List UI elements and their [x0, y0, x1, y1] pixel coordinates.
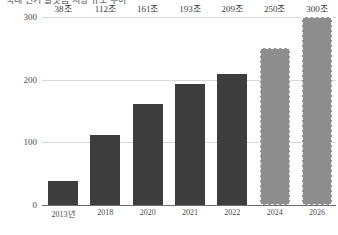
x-axis: 2013년 2018 2020 2021 2022 2024 2026: [42, 208, 336, 219]
bar-slot-2021: 193조: [175, 17, 205, 205]
bar-2018[interactable]: [90, 135, 120, 205]
bar-slot-2024: 250조: [260, 17, 290, 205]
bar-2022[interactable]: [217, 74, 247, 205]
bar-value-label: 161조: [137, 2, 159, 15]
bar-slot-2020: 161조: [133, 17, 163, 205]
bar-group: 38조 112조 161조 193조 209조 250조: [42, 17, 336, 205]
bar-value-label: 112조: [95, 2, 116, 15]
x-tick-2013: 2013년: [48, 208, 78, 219]
bar-slot-2026: 300조: [302, 17, 332, 205]
bar-chart: 국내 전기 플랫폼 시장 규모 추이 300 200 100 0 38조 112…: [0, 0, 338, 235]
bar-value-label: 300조: [306, 2, 328, 15]
y-tick-100: 100: [24, 137, 38, 147]
bar-2026-forecast[interactable]: [302, 17, 332, 205]
plot-area: 300 200 100 0 38조 112조 161조 193조 209조: [42, 17, 336, 205]
bar-2020[interactable]: [133, 104, 163, 205]
bar-2013[interactable]: [48, 181, 78, 205]
bar-value-label: 209조: [222, 2, 244, 15]
x-tick-2022: 2022: [217, 208, 247, 219]
axis-baseline: [42, 205, 336, 206]
y-tick-0: 0: [33, 200, 38, 210]
bar-slot-2013: 38조: [48, 17, 78, 205]
bar-value-label: 193조: [179, 2, 201, 15]
bar-slot-2022: 209조: [217, 17, 247, 205]
x-tick-2018: 2018: [90, 208, 120, 219]
bar-2021[interactable]: [175, 84, 205, 205]
x-tick-2020: 2020: [133, 208, 163, 219]
bar-slot-2018: 112조: [90, 17, 120, 205]
bar-value-label: 250조: [264, 2, 286, 15]
bar-value-label: 38조: [55, 2, 72, 15]
y-tick-300: 300: [24, 12, 38, 22]
y-tick-200: 200: [24, 75, 38, 85]
x-tick-2026: 2026: [302, 208, 332, 219]
bar-2024-forecast[interactable]: [260, 48, 290, 205]
x-tick-2021: 2021: [175, 208, 205, 219]
x-tick-2024: 2024: [260, 208, 290, 219]
